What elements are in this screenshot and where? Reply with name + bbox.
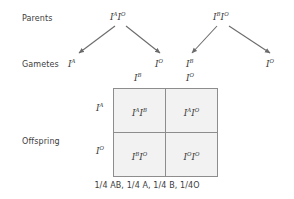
col-head-1-sup: B [138, 72, 142, 78]
punnett-row-header-1: IA [96, 104, 104, 113]
arrow-parent1-left [79, 26, 115, 53]
gamete-4-sup: O [270, 58, 275, 64]
cell-0-0-s2: B [143, 107, 147, 113]
punnett-square-diagram: Parents Gametes Offspring IAIO IBIO IA I… [0, 0, 294, 199]
gamete-2: IO [155, 60, 163, 69]
cell-1-1-text: IOIO [183, 152, 199, 162]
gamete-3: IB [186, 60, 194, 69]
parent-genotype-1: IAIO [110, 13, 126, 22]
arrow-parent2-right [229, 26, 270, 53]
cell-1-1-s2: O [195, 151, 200, 157]
arrow-parent2-left [192, 26, 217, 53]
table-row: IBIO IOIO [114, 133, 218, 177]
gamete-3-sup: B [190, 58, 194, 64]
cell-0-0-text: IAIB [132, 108, 147, 118]
gamete-2-sup: O [159, 58, 164, 64]
arrow-parent1-right [126, 26, 160, 53]
row-label-parents: Parents [22, 14, 52, 23]
cell-0-1-text: IAIO [184, 108, 200, 118]
parent-2-sup-2: O [224, 11, 229, 17]
cell-1-0-text: IBIO [132, 152, 148, 162]
parent-genotype-2: IBIO [213, 13, 229, 22]
gamete-1-sup: A [72, 58, 76, 64]
cell-1-0-s2: O [143, 151, 148, 157]
row-label-offspring: Offspring [22, 137, 60, 146]
parent-1-sup-2: O [121, 11, 126, 17]
punnett-row-header-2: IO [96, 147, 104, 156]
cell-0-1-s2: O [195, 107, 200, 113]
punnett-grid: IAIB IAIO IBIO IOIO [113, 88, 215, 174]
row-label-gametes: Gametes [22, 60, 59, 69]
gamete-1: IA [68, 60, 76, 69]
punnett-table: IAIB IAIO IBIO IOIO [113, 88, 218, 177]
punnett-cell-0-1: IAIO [166, 89, 218, 133]
punnett-column-header-2: IO [186, 74, 194, 83]
punnett-cell-0-0: IAIB [114, 89, 166, 133]
col-head-2-sup: O [190, 72, 195, 78]
gamete-4: IO [266, 60, 274, 69]
row-head-2-sup: O [100, 145, 105, 151]
punnett-cell-1-0: IBIO [114, 133, 166, 177]
offspring-ratio-caption: 1/4 AB, 1/4 A, 1/4 B, 1/4O [0, 181, 294, 190]
row-head-1-sup: A [100, 102, 104, 108]
punnett-cell-1-1: IOIO [166, 133, 218, 177]
table-row: IAIB IAIO [114, 89, 218, 133]
punnett-column-header-1: IB [134, 74, 142, 83]
